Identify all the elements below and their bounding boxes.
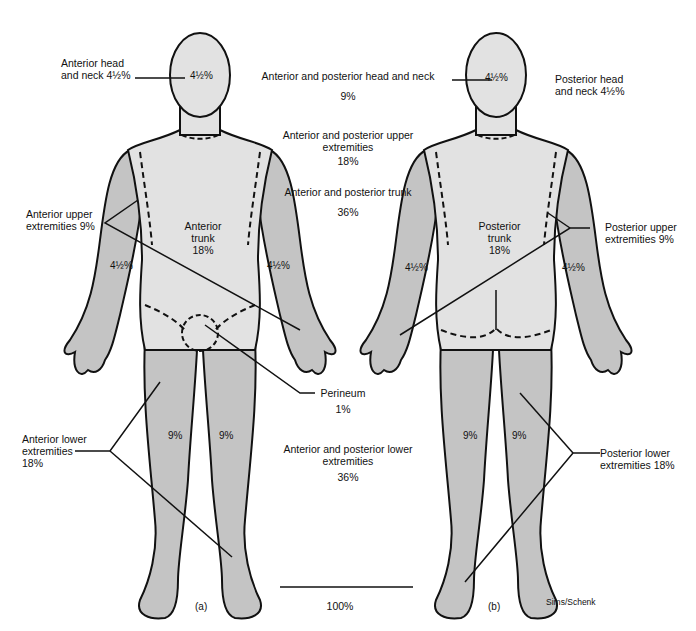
back-trunk-pct: 18% [472,244,527,256]
callout-anterior-lower: Anterior lower extremities 18% [22,433,87,469]
back-trunk-label-line1: Posterior [472,220,527,232]
front-left-leg-pct: 9% [168,430,182,441]
back-right-leg-pct: 9% [512,430,526,441]
callout-posterior-upper: Posterior upper extremities 9% [605,221,677,245]
back-head-pct: 4½% [485,72,508,83]
summary-label: extremities [268,455,428,467]
callout-posterior-head: Posterior head and neck 4½% [555,73,624,97]
callout-line: extremities 18% [600,459,675,471]
summary-label: Anterior and posterior head and neck [258,70,438,82]
front-body-figure [65,33,336,618]
summary-value: 36% [268,206,428,218]
summary-head-neck: Anterior and posterior head and neck 9% [258,70,438,102]
back-body-figure [361,33,632,618]
summary-label: extremities [268,141,428,153]
callout-perineum: Perineum 1% [318,387,368,415]
summary-label: Anterior and posterior trunk [268,186,428,198]
summary-trunk: Anterior and posterior trunk 36% [268,186,428,218]
front-trunk-label-line1: Anterior [178,220,228,232]
front-head-pct: 4½% [190,70,213,81]
front-trunk-pct: 18% [178,244,228,256]
front-caption: (a) [195,601,207,612]
back-trunk-label-line2: trunk [472,232,527,244]
callout-line: Anterior upper [26,208,95,220]
credit-text: Sims/Schenk [546,597,596,607]
callout-line: extremities 9% [605,233,677,245]
callout-posterior-lower: Posterior lower extremities 18% [600,447,675,471]
callout-anterior-head: Anterior head and neck 4½% [61,57,130,81]
summary-value: 9% [258,90,438,102]
summary-label: Anterior and posterior lower [268,443,428,455]
summary-upper-extremities: Anterior and posterior upper extremities… [268,129,428,167]
summary-value: 36% [268,471,428,483]
callout-line: 18% [22,457,87,469]
callout-line: extremities 9% [26,220,95,232]
callout-line: Anterior lower [22,433,87,445]
callout-line: and neck 4½% [555,85,624,97]
front-right-arm-pct: 4½% [267,260,290,271]
callout-line: extremities [22,445,87,457]
summary-value: 18% [268,155,428,167]
back-right-arm-pct: 4½% [562,262,585,273]
front-left-arm-pct: 4½% [110,260,133,271]
callout-line: Anterior head [61,57,130,69]
front-right-leg-pct: 9% [219,430,233,441]
callout-anterior-upper: Anterior upper extremities 9% [26,208,95,232]
front-trunk-label-line2: trunk [178,232,228,244]
back-left-arm-pct: 4½% [405,262,428,273]
callout-line: Posterior lower [600,447,675,459]
callout-line: Posterior head [555,73,624,85]
back-left-leg-pct: 9% [463,430,477,441]
summary-lower-extremities: Anterior and posterior lower extremities… [268,443,428,483]
front-trunk-label: Anterior trunk 18% [178,220,228,256]
callout-line: Posterior upper [605,221,677,233]
callout-line: Perineum [318,387,368,399]
back-caption: (b) [488,601,500,612]
summary-total: 100% [300,600,380,612]
summary-label: Anterior and posterior upper [268,129,428,141]
callout-line: 1% [318,403,368,415]
callout-line: and neck 4½% [61,69,130,81]
back-trunk-label: Posterior trunk 18% [472,220,527,256]
